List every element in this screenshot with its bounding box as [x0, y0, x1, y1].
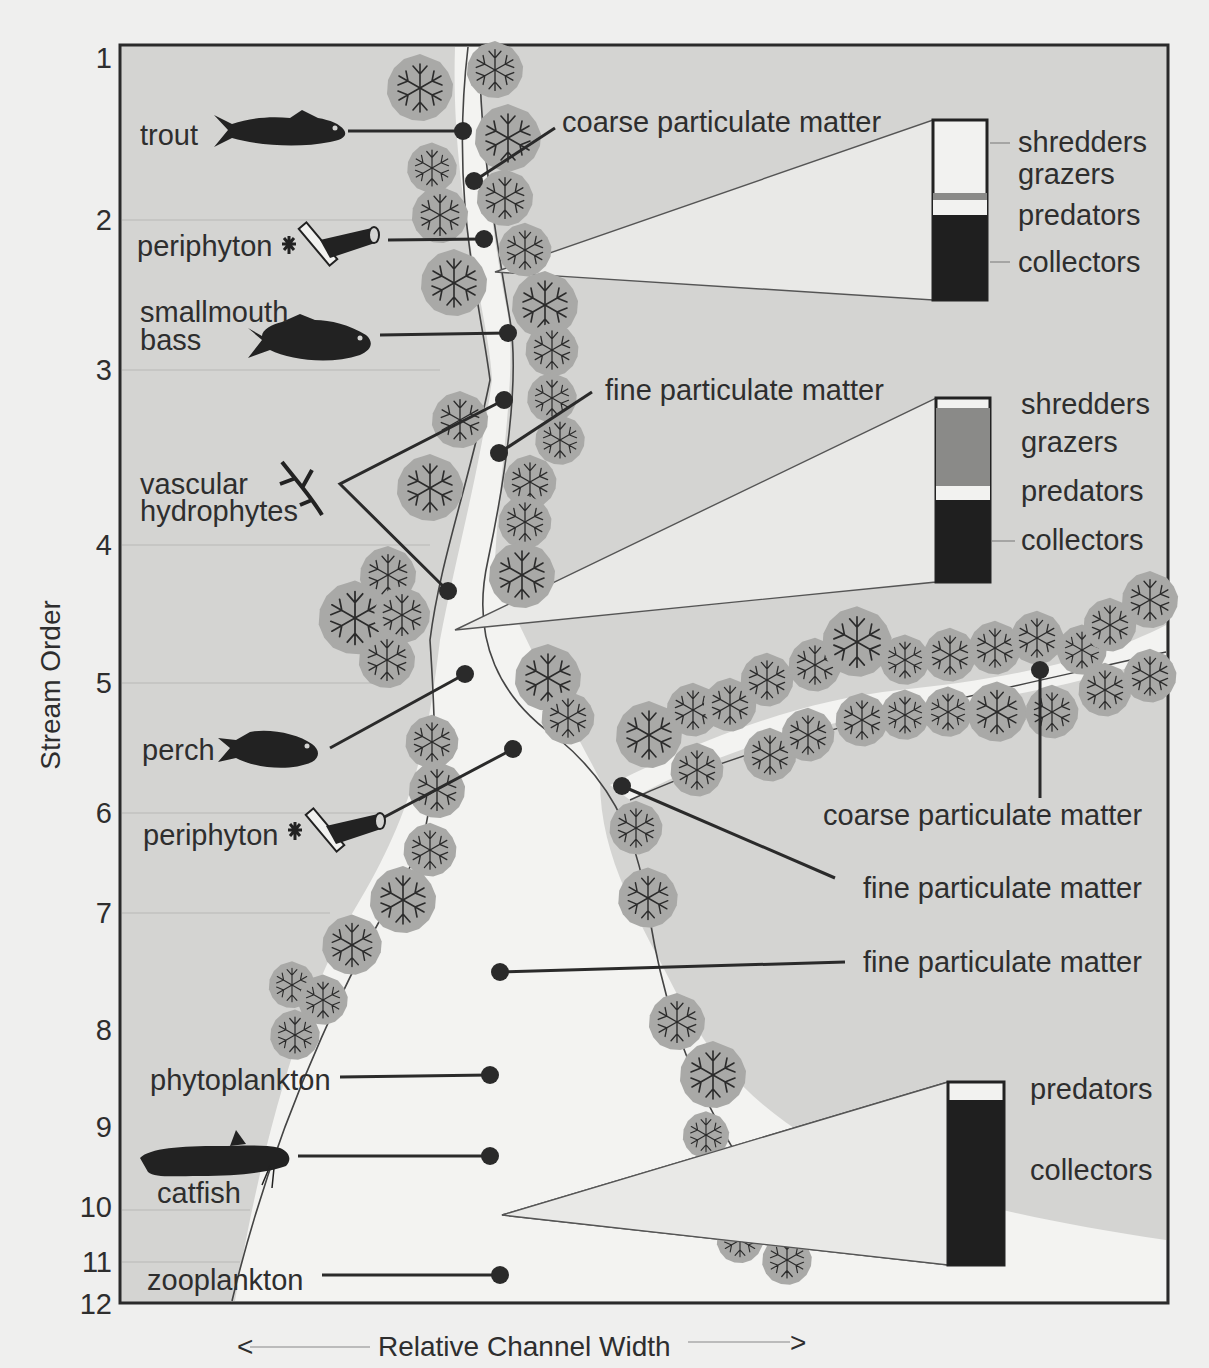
tick-11: 11 — [82, 1246, 112, 1278]
legend-collectors-3: collectors — [1030, 1154, 1153, 1186]
label-phytoplankton: phytoplankton — [150, 1064, 331, 1096]
river-continuum-diagram: 1 2 3 4 5 6 7 8 9 10 11 12 Stream Order … — [0, 0, 1209, 1368]
label-periphyton-lower: periphyton — [143, 819, 278, 851]
tick-7: 7 — [96, 897, 112, 929]
legend-grazers-2: grazers — [1021, 426, 1118, 458]
legend-predators-3: predators — [1030, 1073, 1153, 1105]
stream-order-ticks: 1 2 3 4 5 6 7 8 9 10 11 12 — [80, 42, 112, 1320]
y-axis-label: Stream Order — [35, 600, 66, 770]
label-periphyton-upper: periphyton — [137, 230, 272, 262]
tick-2: 2 — [96, 204, 112, 236]
tick-5: 5 — [96, 667, 112, 699]
label-catfish: catfish — [157, 1177, 241, 1209]
tick-1: 1 — [96, 42, 112, 74]
label-coarse-particulate-tributary: coarse particulate matter — [823, 799, 1142, 831]
label-fine-particulate-lower: fine particulate matter — [863, 946, 1142, 978]
label-fine-particulate-upper: fine particulate matter — [605, 374, 884, 406]
legend-shredders-2: shredders — [1021, 388, 1150, 420]
tick-12: 12 — [80, 1288, 112, 1320]
x-axis: < Relative Channel Width > — [237, 1327, 806, 1362]
tick-8: 8 — [96, 1014, 112, 1046]
label-fine-particulate-junction: fine particulate matter — [863, 872, 1142, 904]
tick-10: 10 — [80, 1191, 112, 1223]
bar-large-rivers — [948, 1082, 1004, 1265]
legend-grazers-1: grazers — [1018, 158, 1115, 190]
x-axis-label: Relative Channel Width — [378, 1331, 671, 1362]
bar-midreaches — [936, 398, 990, 582]
tick-9: 9 — [96, 1111, 112, 1143]
tick-6: 6 — [96, 797, 112, 829]
label-trout: trout — [140, 119, 198, 151]
legend-predators-2: predators — [1021, 475, 1144, 507]
label-coarse-particulate-upper: coarse particulate matter — [562, 106, 881, 138]
label-perch: perch — [142, 734, 215, 766]
bar-headwaters — [933, 120, 987, 300]
legend-collectors-1: collectors — [1018, 246, 1141, 278]
legend-predators-1: predators — [1018, 199, 1141, 231]
legend-collectors-2: collectors — [1021, 524, 1144, 556]
legend-shredders-1: shredders — [1018, 126, 1147, 158]
label-bass: bass — [140, 324, 201, 356]
label-hydrophytes: hydrophytes — [140, 495, 298, 527]
tick-4: 4 — [96, 529, 112, 561]
tick-3: 3 — [96, 354, 112, 386]
x-axis-arrow-right: > — [790, 1327, 806, 1358]
label-zooplankton: zooplankton — [147, 1264, 303, 1296]
